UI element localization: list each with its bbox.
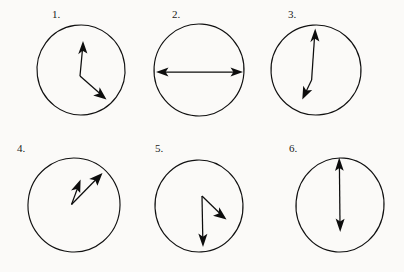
panel-2: 2. <box>151 8 247 119</box>
panel-5-arrow-down-right <box>202 196 227 220</box>
panel-4-arrow-shallow-shaft <box>72 180 97 205</box>
panel-5-label: 5. <box>155 142 164 154</box>
panel-5-arrow-down <box>198 196 207 247</box>
worksheet-page: 1. 2. 3. <box>0 0 404 272</box>
panel-3-arrow-up-shaft <box>312 36 315 80</box>
panel-4-arrow-steep-head <box>71 180 81 194</box>
panel-1-arrow-down-right-shaft <box>80 76 101 94</box>
panel-5-arrow-down-shaft <box>202 196 203 239</box>
vector-circles-figure: 1. 2. 3. <box>0 0 404 272</box>
panel-3: 3. <box>268 8 364 118</box>
panel-1-arrow-down-right <box>80 76 107 100</box>
panel-3-arrow-down-left-short <box>302 80 312 100</box>
panel-5: 5. <box>153 142 246 254</box>
panel-5-circle <box>153 158 246 254</box>
panel-3-arrow-up-long <box>310 29 319 81</box>
panel-2-label: 2. <box>172 8 181 20</box>
panel-5-arrow-diag-shaft <box>202 196 220 214</box>
panel-1-label: 1. <box>52 8 61 20</box>
panel-4-label: 4. <box>17 142 26 154</box>
panel-6-arrow-vertical-double <box>335 158 345 233</box>
panel-3-label: 3. <box>288 8 297 20</box>
panel-2-arrow-horizontal-double <box>156 67 243 76</box>
panel-6-arrow-shaft <box>339 165 340 224</box>
panel-1: 1. <box>31 8 131 121</box>
panel-4-circle <box>23 153 124 256</box>
panel-6: 6. <box>289 142 388 256</box>
panel-1-arrow-up <box>78 41 87 76</box>
panel-6-label: 6. <box>289 142 298 154</box>
panel-4: 4. <box>17 142 125 257</box>
